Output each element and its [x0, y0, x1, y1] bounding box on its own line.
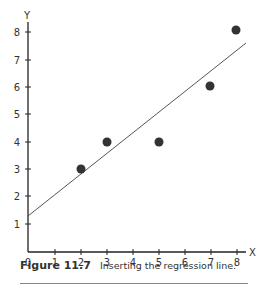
- svg-text:6: 6: [14, 82, 20, 93]
- svg-text:7: 7: [14, 55, 20, 66]
- regression-line: [28, 43, 246, 216]
- caption-divider: [20, 283, 248, 284]
- x-axis-label: X: [249, 247, 256, 258]
- figure-caption: Figure 11.7 Inserting the regression lin…: [20, 259, 236, 272]
- svg-text:2: 2: [14, 191, 20, 202]
- svg-text:1: 1: [14, 219, 20, 230]
- scatter-chart: Y X 8 7 6 5 4 3 2 1 0 1 2 3 4 5: [0, 0, 268, 297]
- data-point: [77, 165, 86, 174]
- data-point: [232, 26, 241, 35]
- svg-text:8: 8: [14, 27, 20, 38]
- y-tick-labels: 8 7 6 5 4 3 2 1: [14, 27, 20, 230]
- data-point: [206, 82, 215, 91]
- y-axis-label: Y: [23, 10, 31, 21]
- data-point: [155, 138, 164, 147]
- figure-caption-text: Inserting the regression line.: [100, 260, 236, 271]
- data-points: [77, 26, 241, 174]
- figure-label: Figure 11.7: [20, 259, 91, 272]
- svg-text:3: 3: [14, 164, 20, 175]
- svg-text:5: 5: [14, 109, 20, 120]
- data-point: [103, 138, 112, 147]
- svg-text:4: 4: [14, 137, 20, 148]
